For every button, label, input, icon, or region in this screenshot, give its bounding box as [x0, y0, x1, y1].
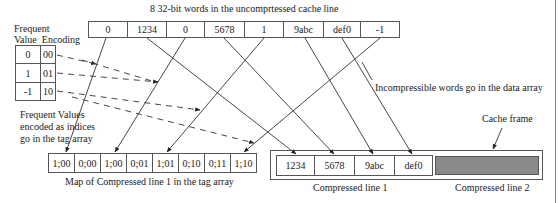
connector-lines — [0, 0, 560, 203]
